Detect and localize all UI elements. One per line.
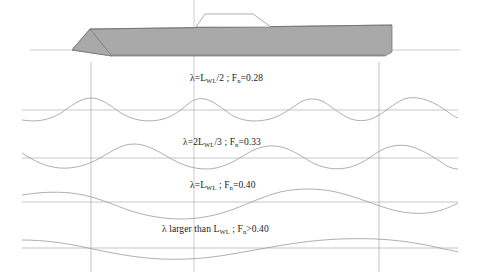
wave-3-mid-text: ; F	[217, 180, 230, 190]
wave-2-mid-text: /3 ; F	[214, 137, 235, 147]
wave-system-2	[22, 144, 458, 169]
wave-3-label: λ=LWL ; Fn=0.40	[190, 181, 256, 191]
wave-4-mid-text: ; F	[230, 224, 243, 234]
wave-2-curve	[22, 144, 458, 169]
wave-4-value-text: >0.40	[246, 224, 268, 234]
wave-2-sub-wl: WL	[204, 141, 214, 148]
wave-4-lambda-text: λ larger than L	[162, 224, 219, 234]
wave-1-mid-text: /2 ; F	[217, 73, 238, 83]
ship-deckhouse	[196, 14, 271, 27]
wave-3-value-text: =0.40	[233, 180, 255, 190]
ship-profile-group	[30, 14, 460, 56]
wave-3-lambda-text: λ=L	[190, 180, 206, 190]
wave-4-sub-n: n	[243, 228, 246, 235]
wave-system-3	[22, 189, 458, 219]
wave-2-value-text: =0.33	[238, 137, 260, 147]
wave-2-lambda-text: λ=2L	[183, 137, 204, 147]
wave-pattern-figure: λ=LWL/2 ; Fn=0.28 λ=2LWL/3 ; Fn=0.33 λ=L…	[0, 0, 482, 273]
wave-2-sub-n: n	[235, 141, 238, 148]
wave-3-curve	[22, 189, 458, 219]
wave-2-label: λ=2LWL/3 ; Fn=0.33	[183, 138, 261, 148]
wave-1-curve	[22, 98, 458, 121]
wave-3-sub-n: n	[230, 184, 233, 191]
wave-system-1	[22, 98, 458, 121]
wave-1-label: λ=LWL/2 ; Fn=0.28	[190, 74, 263, 84]
wave-3-sub-wl: WL	[206, 184, 216, 191]
ship-hull	[72, 25, 392, 56]
wave-4-label: λ larger than LWL ; Fn>0.40	[162, 225, 269, 235]
wave-1-value-text: =0.28	[241, 73, 263, 83]
wave-1-sub-n: n	[237, 77, 240, 84]
wave-4-curve	[22, 239, 458, 260]
wave-system-4	[22, 239, 458, 260]
wave-1-lambda-text: λ=L	[190, 73, 206, 83]
wave-1-sub-wl: WL	[206, 77, 216, 84]
wave-4-sub-wl: WL	[219, 228, 229, 235]
